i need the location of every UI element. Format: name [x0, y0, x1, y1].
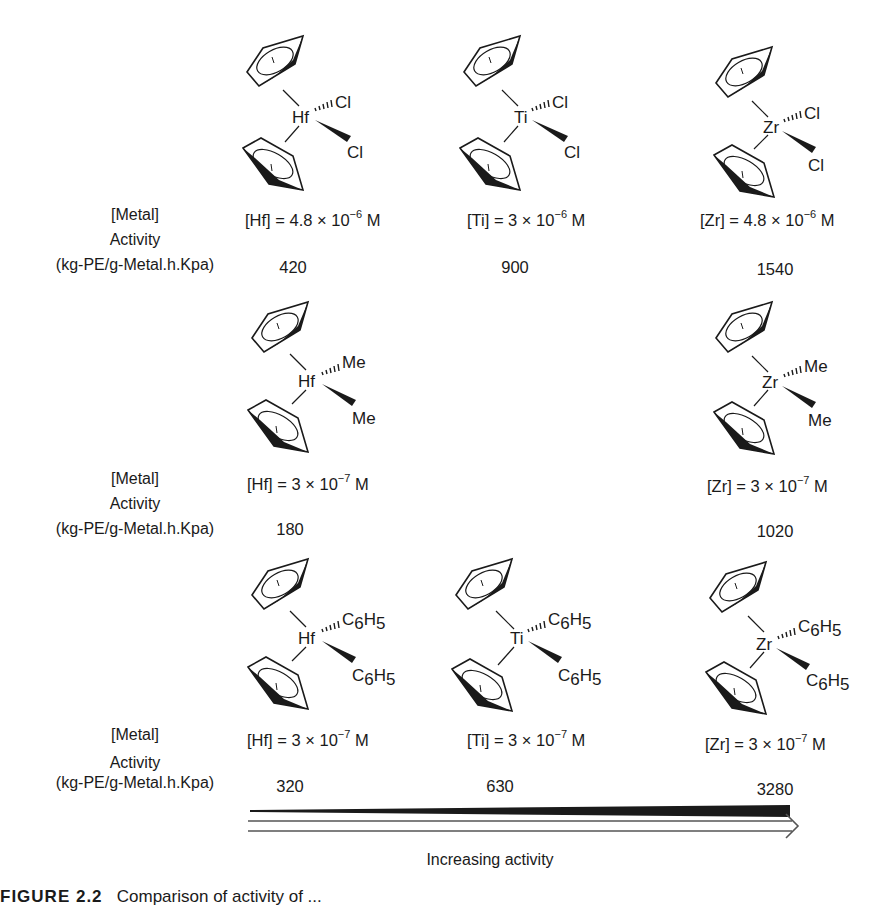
concentration-hf-me: [Hf] = 3 × 10−7 M	[247, 470, 369, 493]
ligand-top: Cl	[335, 93, 351, 112]
activity-hf-ph: 320	[250, 777, 330, 795]
concentration-ti-ph: [Ti] = 3 × 10−7 M	[467, 726, 585, 749]
ligand-bottom: Cl	[808, 156, 824, 175]
metal-symbol: Hf	[292, 108, 309, 127]
ligand-bottom: Me	[352, 409, 376, 428]
molecule-cp2hfme2: Hf Me Me	[248, 296, 418, 466]
activity-ti-ph: 630	[460, 777, 540, 795]
concentration-hf-cl: [Hf] = 4.8 × 10−6 M	[245, 206, 380, 229]
row2-units-label: (kg-PE/g-Metal.h.Kpa)	[40, 520, 230, 538]
activity-zr-cl: 1540	[735, 260, 815, 278]
figure-caption: FIGURE 2.2 Comparison of activity of ...	[0, 887, 322, 907]
ligand-top: C6H5	[798, 617, 842, 640]
ligand-bottom: C6H5	[558, 666, 602, 689]
metal-symbol: Hf	[298, 629, 315, 648]
row2-activity-label: Activity	[85, 495, 185, 513]
row3-activity-label: Activity	[85, 754, 185, 772]
molecule-cp2hfph2: Hf C6H5 C6H5	[248, 553, 418, 723]
ligand-top: Cl	[552, 93, 568, 112]
ligand-bottom: Cl	[347, 143, 363, 162]
concentration-zr-ph: [Zr] = 3 × 10−7 M	[705, 730, 826, 753]
row1-units-label: (kg-PE/g-Metal.h.Kpa)	[40, 256, 230, 274]
molecule-cp2zrme2: Zr Me Me	[706, 296, 876, 466]
molecule-cp2zrph2: Zr C6H5 C6H5	[706, 560, 876, 730]
metal-symbol: Zr	[756, 635, 772, 654]
activity-hf-me: 180	[250, 520, 330, 538]
row1-metal-label: [Metal]	[85, 206, 185, 224]
ligand-top: Me	[342, 353, 366, 372]
concentration-ti-cl: [Ti] = 3 × 10−6 M	[467, 206, 585, 229]
metal-symbol: Ti	[510, 629, 524, 648]
activity-hf-cl: 420	[253, 258, 333, 276]
metal-symbol: Hf	[298, 372, 315, 391]
concentration-zr-me: [Zr] = 3 × 10−7 M	[707, 472, 828, 495]
figure-caption-text: Comparison of activity of ...	[117, 887, 322, 906]
activity-zr-ph: 3280	[735, 780, 815, 798]
increasing-activity-label: Increasing activity	[390, 851, 590, 869]
ligand-bottom: Cl	[564, 143, 580, 162]
row2-metal-label: [Metal]	[85, 470, 185, 488]
ligand-bottom: C6H5	[352, 666, 396, 689]
molecule-cp2tiph2: Ti C6H5 C6H5	[452, 553, 622, 723]
row3-metal-label: [Metal]	[85, 726, 185, 744]
row3-units-label: (kg-PE/g-Metal.h.Kpa)	[40, 774, 230, 792]
molecule-cp2zrcl2: Zr Cl Cl	[706, 45, 876, 215]
activity-zr-me: 1020	[735, 522, 815, 540]
figure-number: FIGURE 2.2	[0, 887, 103, 906]
ligand-top: C6H5	[548, 610, 592, 633]
metal-symbol: Ti	[514, 108, 528, 127]
ligand-bottom: C6H5	[806, 671, 850, 694]
row1-activity-label: Activity	[85, 231, 185, 249]
molecule-cp2hfcl2: Hf Cl Cl	[235, 30, 405, 200]
metal-symbol: Zr	[762, 373, 778, 392]
metal-symbol: Zr	[763, 118, 779, 137]
concentration-hf-ph: [Hf] = 3 × 10−7 M	[247, 726, 369, 749]
increasing-activity-arrow	[240, 800, 810, 840]
ligand-top: C6H5	[342, 610, 386, 633]
activity-ti-cl: 900	[475, 258, 555, 276]
ligand-top: Me	[804, 357, 828, 376]
ligand-bottom: Me	[808, 411, 832, 430]
ligand-top: Cl	[804, 104, 820, 123]
molecule-cp2ticl2: Ti Cl Cl	[452, 30, 622, 200]
concentration-zr-cl: [Zr] = 4.8 × 10−6 M	[700, 206, 835, 229]
